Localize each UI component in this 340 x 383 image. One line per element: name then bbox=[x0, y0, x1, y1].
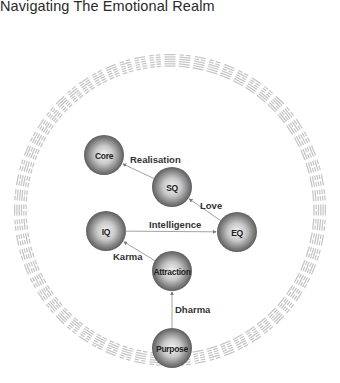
hexagram-icon bbox=[267, 96, 284, 113]
hexagram-icon bbox=[105, 340, 120, 356]
hexagram-icon bbox=[14, 205, 27, 216]
hexagram-icon bbox=[309, 233, 324, 246]
hexagram-icon bbox=[312, 189, 326, 201]
hexagram-icon bbox=[165, 54, 176, 67]
hexagram-icon bbox=[19, 159, 34, 173]
hexagram-icon bbox=[30, 132, 46, 148]
edge-label-intelligence: Intelligence bbox=[149, 219, 201, 230]
hexagram-icon bbox=[312, 219, 326, 231]
hexagram-icon bbox=[257, 86, 274, 103]
hexagram-icon bbox=[119, 346, 133, 361]
hexagram-icon bbox=[277, 107, 294, 124]
node-label: Attraction bbox=[153, 267, 190, 277]
hexagram-icon bbox=[119, 59, 133, 74]
edge-label-love: Love bbox=[200, 200, 222, 211]
hexagram-icon bbox=[134, 56, 147, 71]
hexagram-icon bbox=[220, 340, 235, 356]
emotional-realm-diagram: RealisationLoveIntelligenceKarmaDharma C… bbox=[0, 0, 340, 383]
node-label: IQ bbox=[102, 227, 111, 237]
hexagram-icon bbox=[105, 64, 120, 80]
hexagram-icon bbox=[149, 54, 161, 68]
node-label: Purpose bbox=[156, 344, 188, 354]
hexagram-icon bbox=[179, 54, 191, 68]
hexagram-icon bbox=[79, 77, 95, 94]
node-core: Core bbox=[84, 135, 124, 175]
hexagram-icon bbox=[220, 64, 235, 80]
hexagram-icon bbox=[233, 334, 249, 350]
hexagram-icon bbox=[16, 233, 31, 246]
hexagram-icon bbox=[46, 107, 63, 124]
node-eq: EQ bbox=[217, 212, 257, 252]
edge-label-dharma: Dharma bbox=[175, 304, 211, 315]
hexagram-icon bbox=[14, 219, 28, 231]
hexagram-icon bbox=[206, 346, 220, 361]
hexagram-icon bbox=[67, 317, 84, 334]
edge-label-realisation: Realisation bbox=[130, 154, 181, 165]
hexagram-icon bbox=[257, 317, 274, 334]
hexagram-icon bbox=[37, 119, 54, 135]
hexagram-icon bbox=[24, 260, 40, 275]
node-label: EQ bbox=[231, 228, 243, 238]
hexagram-icon bbox=[46, 297, 63, 314]
edge-arrow-sq-to-core bbox=[123, 164, 154, 179]
hexagram-icon bbox=[309, 174, 324, 187]
hexagram-icon bbox=[19, 246, 34, 260]
edge-label-karma: Karma bbox=[113, 251, 143, 262]
hexagram-icon bbox=[286, 285, 303, 301]
hexagram-icon bbox=[56, 307, 73, 324]
hexagram-icon bbox=[300, 145, 316, 160]
hexagram-icon bbox=[30, 273, 46, 289]
hexagram-icon bbox=[313, 205, 326, 216]
node-iq: IQ bbox=[86, 211, 126, 251]
hexagram-icon bbox=[92, 70, 108, 86]
hexagram-icon bbox=[16, 174, 31, 187]
hexagram-icon bbox=[79, 326, 95, 343]
hexagram-icon bbox=[14, 189, 28, 201]
hexagram-icon bbox=[233, 70, 249, 86]
hexagram-ring bbox=[14, 54, 326, 366]
hexagram-icon bbox=[245, 77, 261, 94]
node-label: SQ bbox=[166, 183, 178, 193]
hexagram-icon bbox=[286, 119, 303, 135]
hexagram-icon bbox=[193, 349, 206, 364]
hexagram-icon bbox=[277, 297, 294, 314]
hexagram-icon bbox=[306, 159, 321, 173]
hexagram-icon bbox=[37, 285, 54, 301]
node-purpose: Purpose bbox=[152, 328, 192, 368]
hexagram-icon bbox=[134, 349, 147, 364]
hexagram-icon bbox=[267, 307, 284, 324]
hexagram-icon bbox=[24, 145, 40, 160]
hexagram-icon bbox=[193, 56, 206, 71]
nodes-layer: CoreSQIQEQAttractionPurpose bbox=[84, 135, 257, 368]
node-label: Core bbox=[95, 151, 114, 161]
hexagram-icon bbox=[67, 86, 84, 103]
hexagram-icon bbox=[92, 334, 108, 350]
edge-arrow-iq-to-eq bbox=[126, 231, 216, 232]
hexagram-icon bbox=[300, 260, 316, 275]
hexagram-icon bbox=[306, 246, 321, 260]
hexagram-icon bbox=[294, 132, 310, 148]
hexagram-icon bbox=[56, 96, 73, 113]
hexagram-icon bbox=[294, 273, 310, 289]
hexagram-icon bbox=[245, 326, 261, 343]
node-attraction: Attraction bbox=[152, 251, 192, 291]
node-sq: SQ bbox=[152, 167, 192, 207]
hexagram-icon bbox=[206, 59, 220, 74]
